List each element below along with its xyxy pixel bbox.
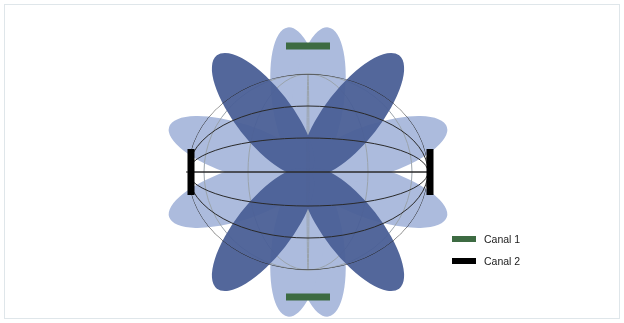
canal-2-dipole-left <box>188 149 195 195</box>
canal-1-dipole-bottom <box>286 294 330 301</box>
legend-label-canal-1: Canal 1 <box>484 234 520 245</box>
legend-swatch-canal-1 <box>452 236 476 242</box>
chart-legend: Canal 1 Canal 2 <box>452 228 548 276</box>
legend-item-canal-2: Canal 2 <box>452 250 548 272</box>
legend-swatch-canal-2 <box>452 258 476 264</box>
legend-label-canal-2: Canal 2 <box>484 256 520 267</box>
legend-item-canal-1: Canal 1 <box>452 228 548 250</box>
canal-1-dipole-top <box>286 43 330 50</box>
radiation-pattern-figure: Canal 1 Canal 2 <box>0 0 624 323</box>
canal-2-dipole-right <box>427 149 434 195</box>
